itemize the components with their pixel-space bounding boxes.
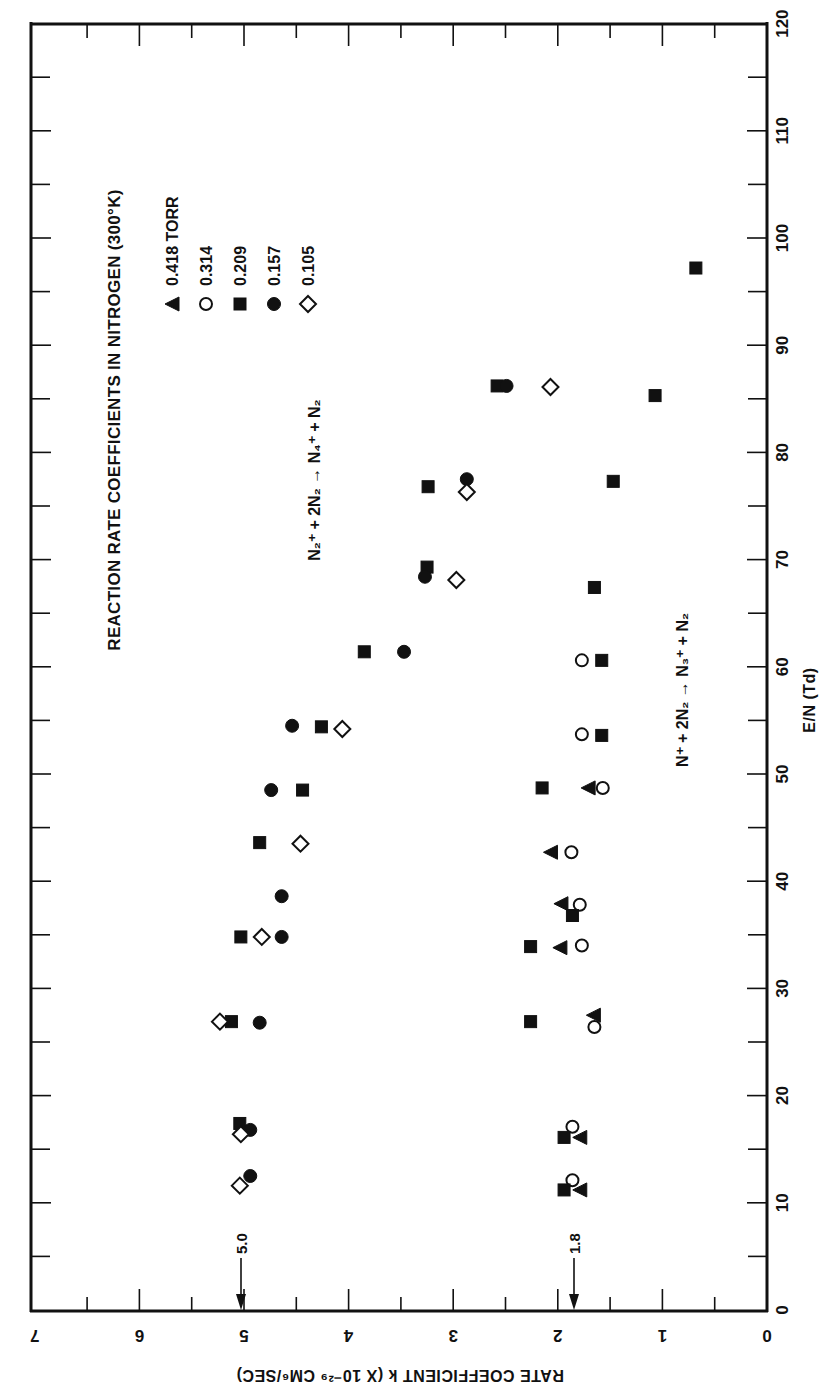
filled-circle-marker (265, 784, 278, 797)
square-marker (558, 1184, 570, 1196)
filled-circle-marker (500, 379, 513, 392)
square-marker (297, 784, 309, 796)
square-marker (235, 931, 247, 943)
chart-title: REACTION RATE COEFFICIENTS IN NITROGEN (… (105, 189, 124, 650)
legend-label: 0.105 (300, 246, 317, 286)
reaction-label-lower: N⁺ + 2N₂ → N₃⁺ + N₂ (674, 613, 691, 767)
k-axis-ticks (87, 24, 715, 1311)
k-tick-label: 5 (239, 1326, 248, 1345)
open-circle-marker (588, 1021, 600, 1033)
filled-circle-marker (268, 298, 281, 311)
en-tick-label: 40 (773, 872, 792, 891)
k-tick-label: 3 (448, 1326, 457, 1345)
diamond-marker (300, 296, 316, 312)
triangle-marker (553, 941, 567, 955)
square-marker (422, 481, 434, 493)
k-tick-label: 4 (343, 1326, 353, 1345)
square-marker (588, 581, 600, 593)
en-tick-label: 80 (773, 443, 792, 462)
en-tick-label: 20 (773, 1086, 792, 1105)
filled-circle-marker (275, 930, 288, 943)
square-marker (649, 390, 661, 402)
square-marker (558, 1131, 570, 1143)
ref-marker-1-8-label: 1.8 (566, 1233, 583, 1254)
diamond-marker (292, 836, 308, 852)
open-circle-marker (574, 899, 586, 911)
plot-frame (30, 22, 768, 1312)
en-tick-label: 120 (773, 9, 792, 37)
reaction-label-upper: N₂⁺ + 2N₂ → N₄⁺ + N₂ (306, 399, 323, 560)
k-tick-label: 0 (762, 1326, 771, 1345)
square-marker (536, 782, 548, 794)
legend-label: 0.209 (232, 246, 249, 286)
filled-circle-marker (398, 645, 411, 658)
k-tick-label: 2 (553, 1326, 562, 1345)
square-marker (315, 721, 327, 733)
legend-label: 0.314 (198, 246, 215, 286)
square-marker (525, 941, 537, 953)
open-circle-marker (597, 782, 609, 794)
legend-label: 0.418 TORR (164, 196, 181, 286)
k-tick-label: 6 (135, 1326, 144, 1345)
en-tick-label: 110 (773, 117, 792, 144)
square-marker (690, 262, 702, 274)
en-tick-label: 10 (773, 1193, 792, 1212)
square-marker (358, 646, 370, 658)
data-points (212, 262, 702, 1197)
en-tick-label: 60 (773, 657, 792, 676)
en-tick-label: 90 (773, 336, 792, 355)
triangle-marker (165, 297, 179, 311)
open-circle-marker (576, 654, 588, 666)
open-circle-marker (576, 728, 588, 740)
ref-marker-5-label: 5.0 (233, 1233, 250, 1254)
en-tick-label: 70 (773, 550, 792, 569)
filled-circle-marker (244, 1170, 257, 1183)
triangle-marker (543, 845, 557, 859)
k-axis-tick-labels: 01234567 (30, 1326, 772, 1345)
en-tick-label: 50 (773, 765, 792, 784)
diamond-marker (254, 929, 270, 945)
square-marker (234, 298, 246, 310)
diamond-marker (459, 484, 475, 500)
en-tick-label: 30 (773, 979, 792, 998)
square-marker (525, 1016, 537, 1028)
open-circle-marker (566, 1121, 578, 1133)
en-axis-ticks (31, 77, 767, 1256)
en-axis-tick-labels: 0102030405060708090100110120 (773, 9, 792, 1314)
square-marker (596, 729, 608, 741)
ref-marker-5: 5.0 (233, 1233, 250, 1310)
filled-circle-marker (275, 890, 288, 903)
open-circle-marker (200, 298, 212, 310)
x-axis-title: E/N (Td) (801, 667, 818, 732)
legend-label: 0.157 (266, 246, 283, 286)
en-tick-label: 0 (773, 1305, 792, 1314)
square-marker (607, 475, 619, 487)
open-circle-marker (576, 940, 588, 952)
k-tick-label: 7 (30, 1326, 39, 1345)
filled-circle-marker (286, 719, 299, 732)
triangle-marker (581, 781, 595, 795)
open-circle-marker (565, 846, 577, 858)
rate-coefficient-chart: 0102030405060708090100110120 01234567 E/… (0, 0, 829, 1386)
filled-circle-marker (253, 1016, 266, 1029)
ref-marker-1-8: 1.8 (566, 1233, 583, 1310)
filled-circle-marker (418, 570, 431, 583)
k-tick-label: 1 (658, 1326, 667, 1345)
triangle-marker (554, 897, 568, 911)
y-axis-title: RATE COEFFICIENT k (X 10⁻²⁹ CM⁶/SEC) (236, 1367, 564, 1384)
diamond-marker (542, 379, 558, 395)
square-marker (254, 837, 266, 849)
square-marker (566, 910, 578, 922)
square-marker (596, 654, 608, 666)
en-tick-label: 100 (773, 224, 792, 252)
diamond-marker (334, 721, 350, 737)
legend: 0.418 TORR0.3140.2090.1570.105 (164, 196, 317, 312)
diamond-marker (448, 572, 464, 588)
